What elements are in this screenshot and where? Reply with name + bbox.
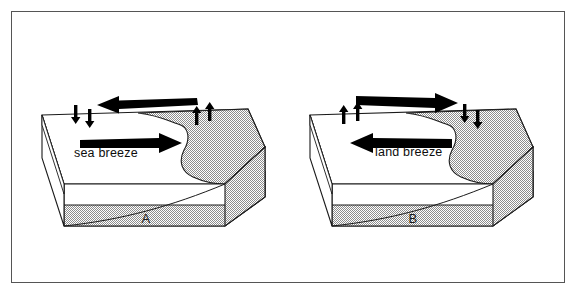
panel-b-caption: B [393, 211, 433, 226]
sea-breeze-label: sea breeze [74, 146, 138, 160]
panel-b: land breeze B [280, 12, 557, 284]
panel-a-caption: A [126, 211, 166, 226]
panel-a: sea breeze A [12, 12, 289, 284]
block-body [42, 109, 265, 226]
figure-root: sea breeze A [0, 0, 579, 296]
upper-flow-arrow-right [356, 93, 458, 113]
land-breeze-label: land breeze [375, 145, 443, 159]
panel-a-block-diagram [12, 12, 289, 284]
block-body [310, 109, 533, 226]
figure-frame: sea breeze A [11, 11, 565, 283]
